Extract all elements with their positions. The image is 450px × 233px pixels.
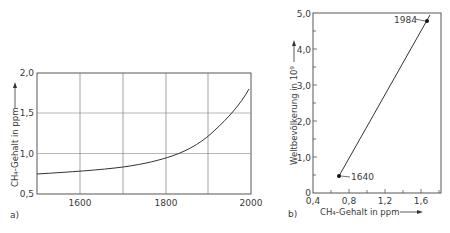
chart-a-xtick: 1600 (69, 198, 92, 208)
chart-b-ylabel: Weltbevölkerung in 10⁹ (289, 65, 299, 165)
chart-b-xlabel: CH₄-Gehalt in ppm (320, 207, 399, 217)
arrow-up-icon (292, 40, 296, 62)
chart-a-vgrid (80, 73, 208, 194)
chart-b-panel-label: b) (288, 209, 297, 219)
chart-b-ytick: 4,0 (297, 45, 312, 55)
chart-a-ytick: 1,5 (20, 108, 34, 118)
chart-a-ytick: 2,0 (20, 68, 35, 78)
chart-b-xtick: 1,6 (414, 196, 429, 206)
chart-b-annotation-1640: 1640 (351, 172, 374, 182)
chart-b-annotation-1984: 1984 (394, 15, 417, 25)
chart-a-ytick: 0,5 (20, 189, 34, 199)
chart-b-point-1640 (337, 174, 341, 178)
chart-b: 1640 1984 5,0 4,0 3,0 2,0 1,0 0 0,4 0,8 … (288, 9, 441, 219)
chart-a-frame (37, 73, 251, 194)
chart-a-curve (37, 89, 249, 174)
chart-b-line (339, 15, 430, 176)
chart-a-xtick: 1800 (155, 198, 178, 208)
chart-a-ytick: 1,0 (20, 149, 35, 159)
chart-b-frame (313, 13, 441, 193)
chart-b-xtick: 1,2 (378, 196, 392, 206)
chart-b-point-1984 (425, 19, 429, 23)
chart-b-xtick: 0,8 (342, 196, 357, 206)
chart-b-ytick: 5,0 (297, 9, 312, 19)
chart-a-xtick: 2000 (240, 198, 263, 208)
chart-a-ylabel: CH₄-Gehalt in ppm (10, 108, 20, 187)
chart-b-yticks (313, 31, 317, 175)
chart-a-hgrid (37, 113, 251, 154)
arrow-right-icon (400, 210, 423, 214)
chart-b-xtick: 0,4 (306, 196, 321, 206)
figure: 2,0 1,5 1,0 0,5 1600 1800 2000 CH₄-Gehal… (0, 0, 450, 233)
chart-b-xticks (331, 189, 439, 193)
arrow-up-icon (13, 82, 17, 108)
chart-a: 2,0 1,5 1,0 0,5 1600 1800 2000 CH₄-Gehal… (10, 68, 263, 220)
chart-a-panel-label: a) (10, 210, 19, 220)
